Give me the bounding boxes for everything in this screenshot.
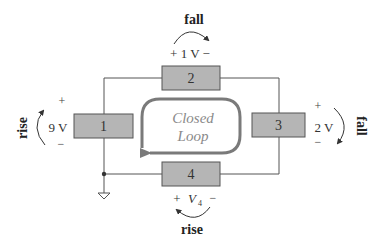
circuit-diagram: 1 2 3 4 Closed Loop fall + 1 V − + 9 V −…	[0, 0, 382, 246]
element-1-label: 1	[100, 119, 107, 134]
element-1-plus: +	[59, 94, 66, 108]
element-3-label: 3	[275, 118, 282, 133]
element-3-voltage: 2 V	[315, 120, 335, 135]
element-1-direction-label: rise	[15, 117, 30, 139]
ground-icon	[98, 193, 110, 199]
element-4-label: 4	[188, 167, 195, 182]
fall-arrow-icon	[174, 32, 208, 44]
element-2-label: 2	[188, 71, 195, 86]
element-3-direction-label: fall	[354, 116, 369, 136]
junction-dot	[102, 172, 106, 176]
rise-arrow-icon	[177, 207, 210, 217]
fall-arrow-icon	[334, 108, 344, 143]
element-3-minus: −	[315, 135, 322, 149]
wire-top-right	[220, 78, 279, 113]
element-4-voltage-symbol: V	[188, 191, 198, 206]
element-4-voltage-subscript: 4	[198, 199, 202, 208]
element-3-plus: +	[315, 99, 322, 113]
element-3: 3	[252, 113, 305, 137]
element-1: 1	[74, 114, 133, 138]
element-2-direction-label: fall	[184, 12, 204, 27]
wire-left-bottom	[104, 138, 162, 174]
element-2-voltage: + 1 V −	[170, 46, 210, 61]
loop-label-line1: Closed	[172, 110, 214, 126]
element-4-direction-label: rise	[181, 222, 203, 237]
wire-top-left	[104, 78, 162, 114]
wire-right-bottom	[220, 137, 279, 174]
rise-arrow-icon	[37, 111, 45, 145]
closed-loop-arrow-icon	[142, 99, 240, 153]
element-4-minus: −	[210, 191, 217, 205]
element-4: 4	[162, 162, 220, 186]
element-4-plus: +	[173, 191, 180, 206]
element-1-minus: −	[58, 137, 65, 151]
element-2: 2	[162, 66, 220, 90]
element-1-voltage: 9 V	[49, 120, 69, 135]
loop-label-line2: Loop	[177, 128, 209, 144]
